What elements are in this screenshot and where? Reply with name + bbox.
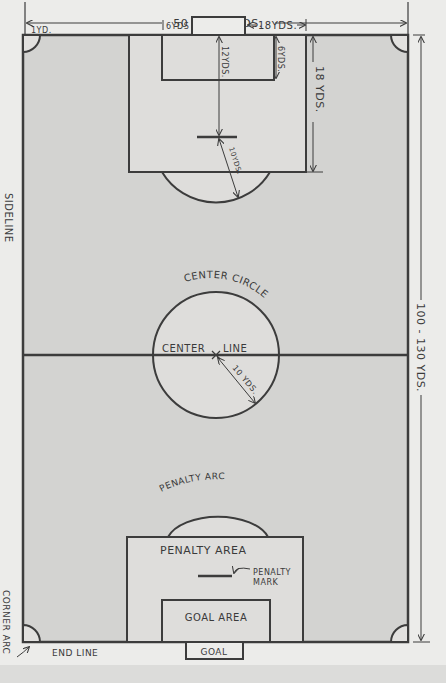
penalty-mark-label-line2: MARK — [253, 578, 278, 587]
goal-label: GOAL — [200, 647, 227, 657]
length-dimension: 100 - 130 YDS. — [413, 35, 430, 642]
goal-area-depth-label: 6YDS. — [276, 46, 285, 72]
corner-arc-label: CORNER ARC — [1, 590, 11, 654]
length-label: 100 - 130 YDS. — [414, 303, 427, 392]
penalty-area-label: PENALTY AREA — [160, 544, 247, 557]
penalty-mark-label-line1: PENALTY — [253, 568, 291, 577]
soccer-field-diagram: 50 TO 100YDS. 1YD. 6YDS 18YDS. 12YDS. 6Y… — [0, 0, 446, 683]
goal-area-label: GOAL AREA — [185, 612, 247, 623]
center-line-label-right: LINE — [223, 343, 247, 354]
penalty-mark-distance-label: 12YDS. — [220, 46, 229, 78]
center-line-label-left: CENTER — [162, 343, 205, 354]
sideline-label: SIDELINE — [3, 193, 14, 243]
corner-radius-label: 1YD. — [31, 26, 52, 35]
penalty-area-depth-label: 18 YDS. — [313, 66, 326, 113]
top-goal — [192, 17, 245, 35]
top-goal-area — [162, 35, 274, 80]
goal-area-width-label: 6YDS — [166, 22, 189, 31]
end-line-label: END LINE — [52, 648, 98, 658]
penalty-offset-label: 18YDS. — [258, 20, 297, 31]
